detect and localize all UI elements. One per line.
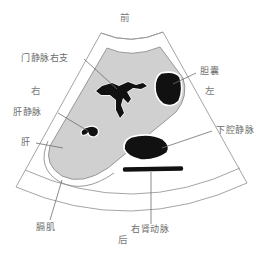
orientation-right: 右 [31, 85, 41, 96]
gallbladder-shape [155, 72, 182, 105]
liver-region [49, 47, 185, 180]
label-right-renal-artery: 右肾动脉 [131, 224, 169, 235]
orientation-left: 左 [205, 85, 215, 96]
label-hepatic-vein: 肝静脉 [13, 107, 42, 118]
right-renal-artery-shape [122, 165, 184, 172]
orientation-anterior: 前 [120, 12, 130, 23]
label-inferior-vena-cava: 下腔静脉 [216, 125, 254, 136]
label-liver: 肝 [21, 137, 31, 148]
leader-ivc [162, 131, 212, 148]
label-portal-vein-right-branch: 门静脉右支 [21, 53, 69, 64]
orientation-posterior: 后 [118, 234, 128, 245]
label-gallbladder: 胆囊 [200, 66, 219, 77]
inferior-vena-cava-shape [124, 135, 169, 160]
ultrasound-sector-diagram: 前 后 右 左 门静脉右支 胆囊 肝静脉 肝 下腔静脉 膈肌 右肾动脉 [0, 0, 273, 262]
label-diaphragm: 膈肌 [36, 222, 55, 233]
